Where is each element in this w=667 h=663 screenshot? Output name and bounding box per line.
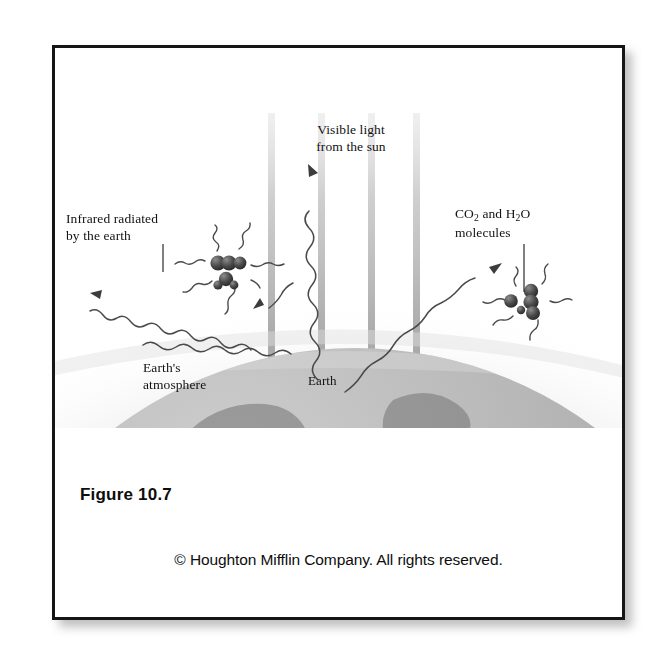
co2-prefix: CO bbox=[455, 206, 474, 221]
figure-card: Visible light from the sun Infrared radi… bbox=[52, 45, 625, 620]
label-earth: Earth bbox=[308, 373, 388, 390]
label-earths-atmosphere: Earth's atmosphere bbox=[143, 359, 263, 394]
molecules-word: molecules bbox=[455, 225, 511, 240]
left-co2-molecule bbox=[210, 255, 246, 270]
co2-conjunction: and H bbox=[479, 206, 516, 221]
copyright-notice: © Houghton Mifflin Company. All rights r… bbox=[55, 551, 622, 569]
arrowhead-vertical bbox=[308, 164, 318, 177]
label-infrared-radiated: Infrared radiated by the earth bbox=[66, 210, 216, 245]
h2o-suffix: O bbox=[521, 206, 531, 221]
label-co2-h2o-molecules: CO2 and H2Omolecules bbox=[455, 205, 595, 241]
greenhouse-effect-illustration: Visible light from the sun Infrared radi… bbox=[55, 48, 622, 428]
figure-number: Figure 10.7 bbox=[80, 485, 172, 505]
label-visible-light: Visible light from the sun bbox=[287, 121, 415, 156]
